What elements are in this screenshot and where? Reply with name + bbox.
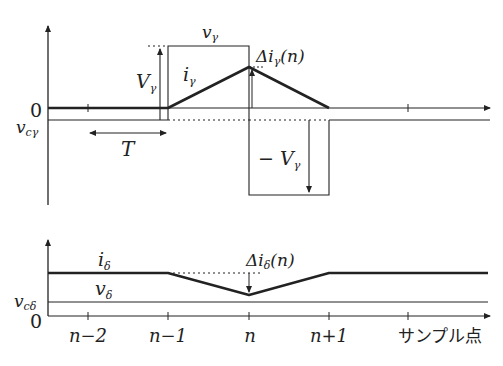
i-gamma-label: iγ: [183, 63, 196, 88]
delta-i-gamma-label: Δiγ(n): [255, 46, 305, 68]
v-gamma-positive-pulse: [168, 46, 249, 120]
v-gamma-label: vγ: [202, 22, 219, 44]
tick-label-n: n: [244, 325, 256, 346]
upper-zero-label: 0: [30, 99, 42, 121]
timing-diagram: 0 vcγ vγ Vγ iγ Δiγ(n) − Vγ T iδ vδ Δiδ(n…: [0, 0, 503, 366]
tick-label-n-minus-1: n−1: [149, 325, 187, 346]
tick-label-n-plus-1: n+1: [310, 325, 348, 346]
period-label: T: [121, 137, 136, 161]
amplitude-label: Vγ: [136, 70, 157, 95]
upper-panel: 0 vcγ vγ Vγ iγ Δiγ(n) − Vγ T: [16, 22, 490, 205]
lower-panel: iδ vδ Δiδ(n) vcδ 0 n−2 n−1 n n+1 サンプル点: [14, 240, 490, 346]
delta-i-delta-label: Δiδ(n): [245, 250, 295, 272]
neg-amplitude-label: − Vγ: [258, 147, 301, 172]
lower-zero-label: 0: [30, 310, 42, 332]
v-delta-label: vδ: [95, 277, 113, 302]
i-delta-current: [48, 273, 488, 295]
i-delta-label: iδ: [98, 248, 111, 273]
tick-label-n-minus-2: n−2: [69, 325, 107, 346]
x-axis-title: サンプル点: [398, 326, 482, 346]
